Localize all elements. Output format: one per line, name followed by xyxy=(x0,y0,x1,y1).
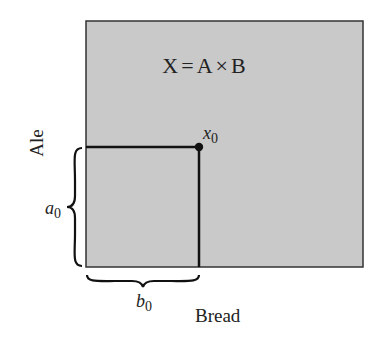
commodity-space-diagram: X=A×B x0 a0 b0 Ale Bread xyxy=(0,0,379,345)
bundle-point xyxy=(195,143,203,151)
region-formula: X=A×B xyxy=(162,53,245,78)
vertical-brace-label: a0 xyxy=(45,198,61,221)
vertical-brace-icon xyxy=(67,148,82,266)
y-axis-label: Ale xyxy=(26,129,47,156)
horizontal-brace-label: b0 xyxy=(136,291,152,314)
x-axis-label: Bread xyxy=(195,305,241,326)
horizontal-brace-icon xyxy=(87,275,199,287)
